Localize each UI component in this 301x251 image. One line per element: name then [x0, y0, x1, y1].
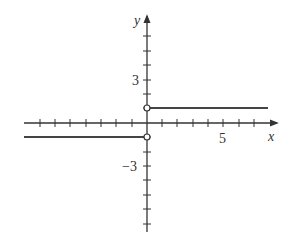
- tick-label-yneg3: −3: [122, 159, 137, 174]
- tick-label-x5: 5: [219, 131, 226, 146]
- open-point-upper: [144, 105, 150, 111]
- tick-label-y3: 3: [132, 73, 139, 88]
- open-point-lower: [144, 134, 150, 140]
- piecewise-graph: y x 3 −3 5: [0, 0, 301, 251]
- y-axis-label: y: [132, 13, 141, 28]
- x-axis-label: x: [267, 129, 275, 144]
